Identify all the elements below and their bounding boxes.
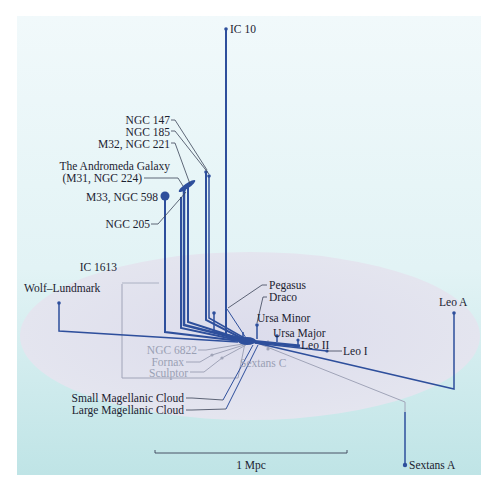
label-wolf-lundmark: Wolf–Lundmark [24,282,101,294]
ic10-dot [224,27,228,31]
label-ic10: IC 10 [230,23,256,35]
label-leo-a: Leo A [439,296,468,308]
scale-bar-label: 1 Mpc [236,459,266,472]
label-ngc147: NGC 147 [126,114,171,126]
label-sextans-a: Sextans A [409,459,456,471]
label-andromeda-line2: (M31, NGC 224) [62,172,142,185]
label-ngc205: NGC 205 [106,218,151,230]
label-draco: Draco [269,291,297,303]
label-m33: M33, NGC 598 [86,191,158,204]
label-leo-ii: Leo II [301,339,330,351]
label-m32: M32, NGC 221 [98,138,170,151]
label-sextans-c: Sextans C [240,357,287,369]
label-large-magellanic: Large Magellanic Cloud [72,404,184,417]
sextans-a-dot [403,463,407,467]
label-ic1613: IC 1613 [80,261,118,273]
diagram-panel: IC 10 NGC 147 NGC 185 M32, NGC 221 The A… [17,16,481,475]
label-ngc185: NGC 185 [126,126,171,138]
label-ursa-minor: Ursa Minor [257,312,311,324]
m33-disk [161,192,170,201]
label-leo-i: Leo I [343,345,368,357]
label-sculptor: Sculptor [149,367,188,380]
label-ngc6822: NGC 6822 [147,344,197,356]
milky-way [238,337,256,345]
local-group-diagram: IC 10 NGC 147 NGC 185 M32, NGC 221 The A… [17,16,481,475]
